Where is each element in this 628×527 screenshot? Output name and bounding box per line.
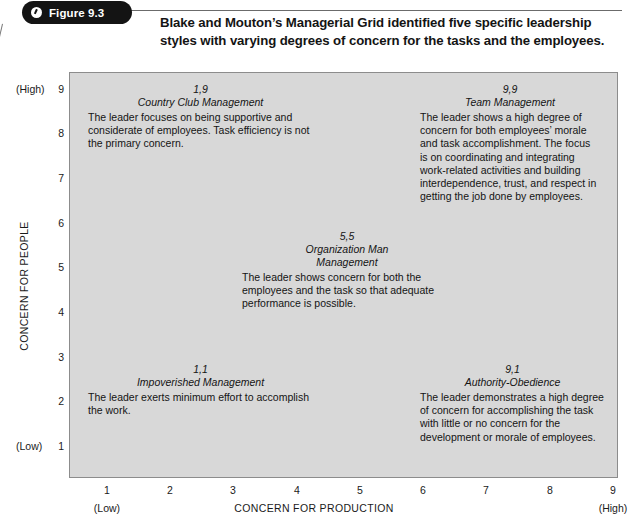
grid-cell-body: The leader exerts minimum effort to acco… (88, 391, 313, 417)
x-tick-4: 4 (287, 484, 307, 496)
grid-cell-title: Organization Man (242, 243, 452, 256)
badge-leader-line (0, 24, 3, 94)
grid-cell-body: The leader focuses on being supportive a… (88, 111, 313, 151)
y-axis-title: CONCERN FOR PEOPLE (18, 206, 30, 366)
grid-cell-country-club: 1,9 Country Club Management The leader f… (88, 83, 313, 151)
y-tick-3: 3 (52, 351, 64, 363)
y-tick-9: 9 (52, 83, 64, 95)
figure-badge: Figure 9.3 (22, 1, 132, 24)
x-tick-3: 3 (223, 484, 243, 496)
y-tick-4: 4 (52, 306, 64, 318)
grid-cell-title-line2: Management (242, 256, 452, 269)
y-tick-8: 8 (52, 127, 64, 139)
grid-cell-title: Team Management (420, 96, 600, 109)
y-tick-5: 5 (52, 261, 64, 273)
grid-cell-coord: 5,5 (242, 230, 452, 243)
grid-cell-authority-obedience: 9,1 Authority-Obedience The leader demon… (420, 363, 605, 444)
x-tick-8: 8 (540, 484, 560, 496)
y-tick-6: 6 (52, 217, 64, 229)
grid-cell-coord: 1,1 (88, 363, 313, 376)
figure-title: Blake and Mouton’s Managerial Grid ident… (160, 14, 620, 49)
x-tick-1: 1 (97, 484, 117, 496)
header-rule (110, 10, 622, 11)
grid-cell-organization-man: 5,5 Organization Man Management The lead… (242, 230, 452, 311)
grid-cell-title: Country Club Management (88, 96, 313, 109)
x-tick-7: 7 (476, 484, 496, 496)
grid-cell-coord: 9,1 (420, 363, 605, 376)
x-tick-9: 9 (603, 484, 623, 496)
grid-cell-title: Authority-Obedience (420, 376, 605, 389)
grid-cell-coord: 1,9 (88, 83, 313, 96)
figure-badge-label: Figure 9.3 (49, 7, 104, 19)
grid-cell-title: Impoverished Management (88, 376, 313, 389)
x-tick-5: 5 (350, 484, 370, 496)
grid-cell-body: The leader shows a high degree of concer… (420, 111, 600, 203)
grid-cell-team-management: 9,9 Team Management The leader shows a h… (420, 83, 600, 203)
x-tick-2: 2 (160, 484, 180, 496)
y-tick-2: 2 (52, 395, 64, 407)
grid-cell-coord: 9,9 (420, 83, 600, 96)
grid-cell-impoverished: 1,1 Impoverished Management The leader e… (88, 363, 313, 417)
y-tick-7: 7 (52, 172, 64, 184)
grid-cell-body: The leader demonstrates a high degree of… (420, 391, 605, 444)
y-tick-1: 1 (52, 440, 64, 452)
info-clock-icon (31, 7, 42, 18)
x-axis-title: CONCERN FOR PRODUCTION (0, 502, 628, 514)
x-axis-high-label: (High) (588, 502, 628, 514)
x-tick-6: 6 (413, 484, 433, 496)
grid-cell-body: The leader shows concern for both the em… (242, 271, 452, 311)
